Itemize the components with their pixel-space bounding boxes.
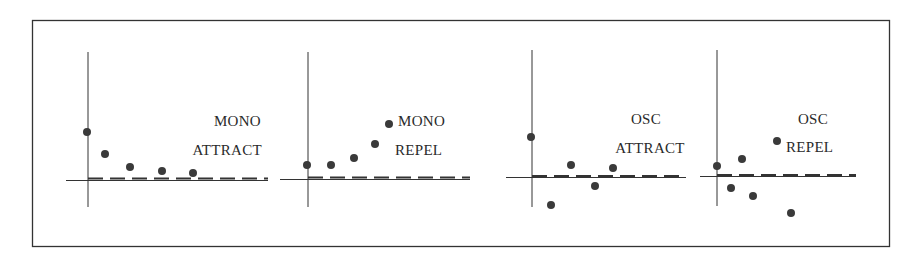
data-points xyxy=(527,133,617,209)
panel-label-line2: REPEL xyxy=(786,139,833,155)
panel-label-line1: OSC xyxy=(631,111,661,127)
panel-label-line1: MONO xyxy=(398,113,445,129)
figure-frame xyxy=(33,21,890,247)
panel-label-line2: ATTRACT xyxy=(615,140,685,156)
panel-label-line2: REPEL xyxy=(395,142,442,158)
data-points xyxy=(83,128,197,177)
panel-osc-repel: OSC REPEL xyxy=(700,50,856,217)
panel-osc-attract: OSC ATTRACT xyxy=(506,50,686,209)
panel-mono-attract: MONO ATTRACT xyxy=(66,52,268,207)
panel-label-line1: OSC xyxy=(798,111,828,127)
figure: MONO ATTRACT MONO REPEL OSC ATTRACT xyxy=(0,0,913,258)
data-points xyxy=(303,120,393,169)
panel-label-line2: ATTRACT xyxy=(192,142,262,158)
panel-mono-repel: MONO REPEL xyxy=(280,52,470,207)
panel-label-line1: MONO xyxy=(214,113,261,129)
